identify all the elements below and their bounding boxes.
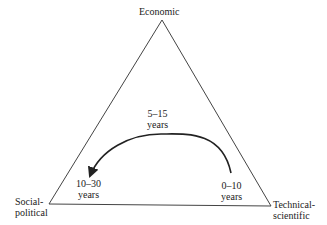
vertex-label-economic: Economic [139, 6, 180, 17]
technical-duration-range: 0–10 [221, 180, 242, 191]
vertex-label-technical-scientific: Technical- scientific [273, 199, 315, 221]
technical-label-line1: Technical- [273, 199, 315, 210]
social-duration-range: 10–30 [76, 178, 101, 189]
cycle-arrow [90, 134, 231, 176]
technical-label-line2: scientific [273, 210, 315, 221]
vertex-label-social-political: Social- political [15, 196, 48, 218]
duration-label-social: 10–30 years [76, 178, 101, 200]
economic-label: Economic [139, 6, 180, 17]
economic-duration-unit: years [147, 119, 168, 130]
social-label-line2: political [15, 207, 48, 218]
duration-label-economic: 5–15 years [147, 108, 168, 130]
social-label-line1: Social- [15, 196, 48, 207]
economic-duration-range: 5–15 [147, 108, 168, 119]
technical-duration-unit: years [221, 191, 242, 202]
social-duration-unit: years [76, 189, 101, 200]
duration-label-technical: 0–10 years [221, 180, 242, 202]
